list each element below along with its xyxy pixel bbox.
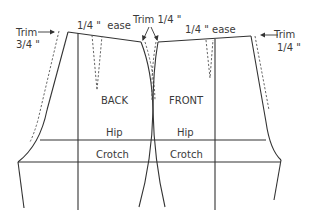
back-label: BACK: [101, 95, 129, 106]
trim-right-label-1: Trim: [273, 29, 295, 40]
hip-front-label: Hip: [177, 127, 194, 138]
pattern-diagram: Trim 3/4 " 1/4 " ease Trim 1/4 " 1/4 " e…: [0, 0, 311, 215]
trim-right-label-2: 1/4 ": [277, 42, 301, 53]
trim-center-arrows: [142, 27, 159, 41]
front-waist-line: [158, 36, 251, 42]
front-center-seam: [153, 42, 165, 207]
back-inseam: [18, 162, 24, 208]
back-side-seam: [47, 32, 68, 110]
front-pattern-piece: [152, 36, 281, 210]
back-pattern-piece: [18, 31, 155, 210]
front-side-seam: [251, 36, 281, 160]
crotch-back-label: Crotch: [96, 149, 129, 160]
trim-center-label: Trim 1/4 ": [132, 14, 181, 25]
trim-left-label-1: Trim: [15, 27, 37, 38]
crotch-front-label: Crotch: [170, 149, 203, 160]
trim-left-arrow: [38, 30, 55, 35]
back-dart: [92, 35, 102, 90]
ease-front-label: 1/4 " ease: [185, 24, 236, 35]
trim-left-label-2: 3/4 ": [16, 39, 40, 50]
hip-back-label: Hip: [106, 127, 123, 138]
front-dart: [206, 40, 213, 78]
front-label: FRONT: [169, 95, 204, 106]
ease-back-label: 1/4 " ease: [77, 20, 131, 31]
back-waist-line: [68, 32, 141, 42]
front-inseam: [274, 160, 281, 200]
